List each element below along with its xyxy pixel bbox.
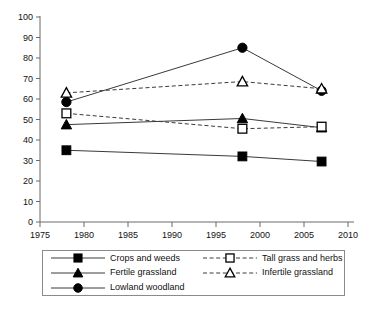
series-infertile-grassland: [61, 76, 327, 97]
x-tick-label: 1975: [30, 230, 50, 240]
y-tick-label: 70: [23, 74, 33, 84]
legend: Crops and weedsTall grass and herbsFerti…: [42, 250, 345, 296]
series-tall-grass-and-herbs: [62, 109, 326, 133]
y-tick-label: 10: [23, 197, 33, 207]
x-tick-label: 1990: [162, 230, 182, 240]
series-crops-and-weeds: [62, 146, 326, 166]
x-axis: 19751980198519901995200020052010: [30, 222, 358, 240]
legend-label: Tall grass and herbs: [262, 254, 343, 263]
data-point: [238, 152, 247, 161]
data-point: [237, 113, 247, 122]
x-tick-label: 2010: [338, 230, 358, 240]
data-point: [62, 146, 71, 155]
legend-entry[interactable]: Infertile grassland: [195, 266, 346, 281]
y-axis: 0102030405060708090100: [18, 12, 40, 227]
data-point: [237, 76, 247, 85]
legend-swatch: [50, 266, 106, 280]
legend-label: Crops and weeds: [110, 254, 180, 263]
data-point: [317, 157, 326, 166]
y-tick-label: 80: [23, 53, 33, 63]
legend-entry[interactable]: Lowland woodland: [43, 280, 195, 295]
y-tick-label: 50: [23, 115, 33, 125]
y-tick-label: 90: [23, 33, 33, 43]
legend-marker: [74, 283, 83, 292]
legend-label: Lowland woodland: [110, 283, 185, 292]
x-tick-label: 1985: [118, 230, 138, 240]
series-lowland-woodland: [62, 43, 326, 107]
legend-marker: [74, 254, 82, 262]
y-tick-label: 60: [23, 94, 33, 104]
legend-label: Infertile grassland: [262, 268, 333, 277]
legend-entry[interactable]: Fertile grassland: [43, 266, 195, 281]
legend-marker: [226, 254, 234, 262]
y-tick-label: 100: [18, 12, 33, 22]
data-point: [238, 43, 247, 52]
x-tick-label: 1995: [206, 230, 226, 240]
legend-swatch: [50, 251, 106, 265]
line-chart: 0102030405060708090100 19751980198519901…: [0, 0, 369, 310]
legend-label: Fertile grassland: [110, 268, 177, 277]
plot-area: 0102030405060708090100 19751980198519901…: [0, 0, 369, 250]
legend-swatch: [202, 266, 258, 280]
x-tick-label: 2000: [250, 230, 270, 240]
legend-swatch: [202, 251, 258, 265]
legend-entry[interactable]: Tall grass and herbs: [195, 251, 346, 266]
y-tick-label: 40: [23, 135, 33, 145]
y-tick-label: 0: [28, 217, 33, 227]
data-point: [238, 124, 247, 133]
legend-swatch: [50, 281, 106, 295]
data-point: [62, 109, 71, 118]
legend-entry[interactable]: Crops and weeds: [43, 251, 195, 266]
y-tick-label: 20: [23, 176, 33, 186]
data-point: [62, 97, 71, 106]
cut-off-title: [46, 0, 286, 5]
x-tick-label: 1980: [74, 230, 94, 240]
x-tick-label: 2005: [294, 230, 314, 240]
y-tick-label: 30: [23, 156, 33, 166]
series-layer: [61, 43, 327, 166]
data-point: [317, 122, 326, 131]
